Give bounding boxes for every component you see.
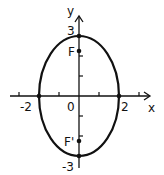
tick-label-y-pos: 3 xyxy=(67,24,75,38)
y-axis-label: y xyxy=(67,4,74,18)
ellipse-diagram: y x 0 -2 2 3 -3 F F' xyxy=(0,0,164,175)
focus-lower xyxy=(77,139,82,144)
vertex-bottom xyxy=(77,154,82,159)
focus-upper-label: F xyxy=(68,45,75,59)
vertex-top xyxy=(77,34,82,39)
tick-label-x-pos: 2 xyxy=(121,100,129,114)
vertex-left xyxy=(37,94,42,99)
tick-label-y-neg: -3 xyxy=(62,160,74,174)
origin-label: 0 xyxy=(67,100,75,114)
y-axis xyxy=(75,16,83,168)
x-axis xyxy=(10,92,150,100)
tick-label-x-neg: -2 xyxy=(20,100,32,114)
x-axis-label: x xyxy=(148,101,155,115)
vertex-right xyxy=(117,94,122,99)
focus-lower-label: F' xyxy=(64,135,74,149)
focus-upper xyxy=(77,49,82,54)
